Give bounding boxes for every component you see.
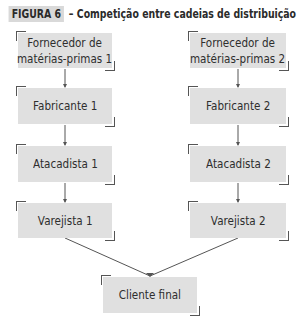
node-manufacturer-1: Fabricante 1 bbox=[18, 88, 112, 124]
corner-bracket-icon bbox=[105, 231, 115, 241]
node-label: Fabricante 1 bbox=[33, 98, 97, 114]
corner-bracket-icon bbox=[279, 231, 289, 241]
corner-bracket-icon bbox=[188, 144, 198, 154]
corner-bracket-icon bbox=[188, 86, 198, 96]
corner-bracket-icon bbox=[279, 175, 289, 185]
node-label: Cliente final bbox=[119, 287, 181, 303]
node-manufacturer-2: Fabricante 2 bbox=[190, 88, 286, 124]
node-label: Atacadista 2 bbox=[206, 156, 271, 172]
arrow-retailer1-to-client bbox=[65, 238, 150, 276]
corner-bracket-icon bbox=[105, 175, 115, 185]
node-final-client: Cliente final bbox=[103, 277, 197, 313]
corner-bracket-icon bbox=[279, 117, 289, 127]
corner-bracket-icon bbox=[16, 201, 26, 211]
corner-bracket-icon bbox=[190, 306, 200, 316]
corner-bracket-icon bbox=[16, 144, 26, 154]
corner-bracket-icon bbox=[105, 117, 115, 127]
node-label: Varejista 2 bbox=[211, 213, 266, 229]
node-retailer-2: Varejista 2 bbox=[190, 203, 286, 238]
node-wholesaler-1: Atacadista 1 bbox=[18, 146, 112, 182]
node-label: Fabricante 2 bbox=[206, 98, 270, 114]
node-wholesaler-2: Atacadista 2 bbox=[190, 146, 286, 182]
node-label: Varejista 1 bbox=[38, 213, 93, 229]
node-label: Fornecedor de matérias-primas 2 bbox=[190, 35, 285, 67]
corner-bracket-icon bbox=[16, 86, 26, 96]
corner-bracket-icon bbox=[279, 61, 289, 71]
node-retailer-1: Varejista 1 bbox=[18, 203, 112, 238]
corner-bracket-icon bbox=[105, 61, 115, 71]
corner-bracket-icon bbox=[188, 201, 198, 211]
corner-bracket-icon bbox=[101, 275, 111, 285]
node-supplier-2: Fornecedor de matérias-primas 2 bbox=[190, 33, 286, 68]
node-supplier-1: Fornecedor de matérias-primas 1 bbox=[18, 33, 112, 68]
arrow-retailer2-to-client bbox=[150, 238, 238, 276]
node-label: Fornecedor de matérias-primas 1 bbox=[17, 35, 112, 67]
node-label: Atacadista 1 bbox=[33, 156, 98, 172]
